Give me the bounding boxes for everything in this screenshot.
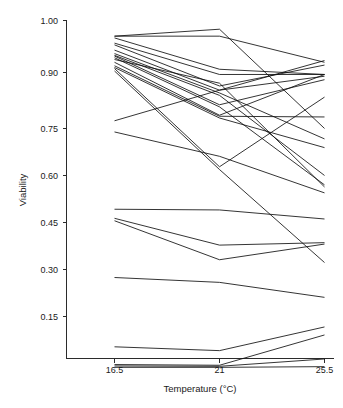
- viability-temperature-line-chart: 1.00 0.90 0.75 0.60 0.45 0.30 0.15 16.5 …: [0, 0, 343, 408]
- series-line: [115, 209, 325, 219]
- series-line: [115, 327, 325, 351]
- y-axis-title: Viability: [17, 173, 28, 206]
- series-line: [115, 36, 325, 62]
- y-tick-label: 0.30: [40, 265, 58, 275]
- y-axis-ticks: 1.00 0.90 0.75 0.60 0.45 0.30 0.15: [40, 16, 66, 322]
- series-line: [115, 29, 325, 128]
- series-line: [115, 132, 325, 193]
- series-line: [115, 58, 325, 185]
- series-line: [115, 218, 325, 245]
- series-line: [115, 50, 325, 90]
- series-line: [115, 68, 325, 148]
- chart-figure: 1.00 0.90 0.75 0.60 0.45 0.30 0.15 16.5 …: [0, 0, 343, 408]
- y-tick-label: 1.00: [40, 16, 58, 26]
- series-line: [115, 278, 325, 298]
- y-tick-label: 0.15: [40, 312, 58, 322]
- y-tick-label: 0.45: [40, 218, 58, 228]
- y-tick-label: 0.75: [40, 124, 58, 134]
- y-tick-label: 0.60: [40, 171, 58, 181]
- x-tick-label: 16.5: [106, 365, 124, 375]
- series-group: [115, 29, 325, 367]
- series-line: [115, 66, 325, 117]
- x-axis-title: Temperature (°C): [164, 383, 237, 394]
- y-tick-label: 0.90: [40, 68, 58, 78]
